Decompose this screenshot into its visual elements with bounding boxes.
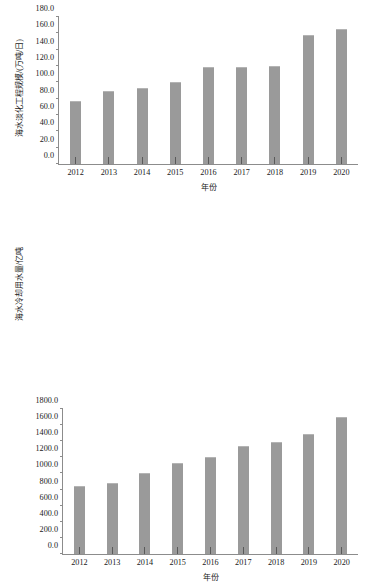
y-tick-label: 1800.0 (35, 396, 58, 405)
bar (205, 457, 216, 554)
x-tick-mark (75, 157, 76, 164)
bar-item (96, 409, 129, 554)
y-tick-label: 80.0 (40, 85, 54, 94)
x-tick-mark (341, 547, 342, 554)
x-tick-label: 2020 (325, 168, 358, 177)
bar-item (227, 409, 260, 554)
y-axis-title: 海水冷却用水量/亿吨 (13, 204, 27, 364)
bar (139, 473, 150, 554)
x-tick-mark (308, 157, 309, 164)
y-tick-label: 400.0 (40, 508, 58, 517)
y-tick-label: 600.0 (40, 492, 58, 501)
bar-item (192, 17, 225, 164)
bar-item (63, 409, 96, 554)
x-tick-mark (79, 547, 80, 554)
y-tick-label: 140.0 (36, 36, 54, 45)
x-tick-mark (308, 547, 309, 554)
bar (170, 82, 181, 164)
bar-item (292, 409, 325, 554)
x-tick-label: 2020 (325, 558, 358, 567)
x-tick-mark (274, 157, 275, 164)
y-tick-label: 200.0 (40, 524, 58, 533)
x-tick-label: 2015 (159, 168, 192, 177)
x-tick-label: 2018 (258, 168, 291, 177)
x-axis-ticks: 201220132014201520162017201820192020 (59, 168, 358, 177)
bar-item (325, 409, 358, 554)
y-tick-label: 1400.0 (35, 428, 58, 437)
bar (172, 463, 183, 554)
chart-panel-desalination-capacity: 海水淡化工程规模/(万吨/日) 0.020.040.060.080.0100.0… (0, 0, 365, 198)
bar (303, 35, 314, 164)
x-tick-label: 2016 (194, 558, 227, 567)
x-tick-mark (144, 547, 145, 554)
y-tick-label: 180.0 (36, 4, 54, 13)
bar-item (258, 17, 291, 164)
bar-item (194, 409, 227, 554)
bar (70, 101, 81, 164)
chart-panel-seawater-cooling-usage: 海水冷却用水量/亿吨 0.0200.0400.0600.0800.01000.0… (0, 198, 365, 396)
bar-item (292, 17, 325, 164)
y-tick-label: 1000.0 (35, 460, 58, 469)
bar-item (159, 17, 192, 164)
bar (269, 66, 280, 164)
y-tick-label: 0.0 (44, 151, 54, 160)
bar (336, 417, 347, 554)
x-tick-mark (208, 157, 209, 164)
x-axis-title: 年份 (63, 571, 358, 582)
bar-item (161, 409, 194, 554)
bar (203, 67, 214, 164)
bar (271, 442, 282, 554)
plot-area: 0.020.040.060.080.0100.0120.0140.0160.01… (58, 17, 358, 165)
x-tick-mark (177, 547, 178, 554)
x-tick-label: 2018 (260, 558, 293, 567)
bar (137, 88, 148, 164)
x-tick-label: 2012 (63, 558, 96, 567)
y-tick-label: 100.0 (36, 69, 54, 78)
bar-series (63, 409, 358, 554)
bar-item (225, 17, 258, 164)
x-tick-label: 2019 (292, 558, 325, 567)
bar (238, 446, 249, 554)
bar-item (260, 409, 293, 554)
bar (74, 486, 85, 554)
y-tick-label: 0.0 (48, 541, 58, 550)
x-tick-label: 2017 (227, 558, 260, 567)
x-tick-label: 2013 (92, 168, 125, 177)
y-axis-title: 海水淡化工程规模/(万吨/日) (13, 8, 27, 168)
x-tick-mark (142, 157, 143, 164)
bar-item (325, 17, 358, 164)
x-tick-mark (341, 157, 342, 164)
y-tick-label: 120.0 (36, 53, 54, 62)
x-tick-mark (210, 547, 211, 554)
x-tick-mark (241, 157, 242, 164)
y-tick-label: 20.0 (40, 134, 54, 143)
bar-series (59, 17, 358, 164)
y-tick-label: 800.0 (40, 476, 58, 485)
y-tick-label: 1200.0 (35, 444, 58, 453)
plot-area: 0.0200.0400.0600.0800.01000.01200.01400.… (62, 409, 358, 555)
x-tick-label: 2017 (225, 168, 258, 177)
x-axis-title: 年份 (59, 181, 358, 192)
bar (236, 67, 247, 164)
bar (103, 91, 114, 165)
x-tick-mark (243, 547, 244, 554)
x-tick-label: 2015 (161, 558, 194, 567)
x-tick-label: 2013 (96, 558, 129, 567)
bar-item (59, 17, 92, 164)
bar-item (92, 17, 125, 164)
x-tick-mark (112, 547, 113, 554)
bar-item (125, 17, 158, 164)
bar (303, 434, 314, 554)
y-tick-label: 40.0 (40, 118, 54, 127)
bar (336, 29, 347, 164)
y-tick-label: 60.0 (40, 102, 54, 111)
y-tick-label: 1600.0 (35, 412, 58, 421)
bar (107, 483, 118, 554)
x-tick-label: 2016 (192, 168, 225, 177)
x-tick-mark (175, 157, 176, 164)
x-tick-label: 2014 (125, 168, 158, 177)
x-tick-label: 2019 (292, 168, 325, 177)
x-tick-mark (108, 157, 109, 164)
x-tick-mark (276, 547, 277, 554)
